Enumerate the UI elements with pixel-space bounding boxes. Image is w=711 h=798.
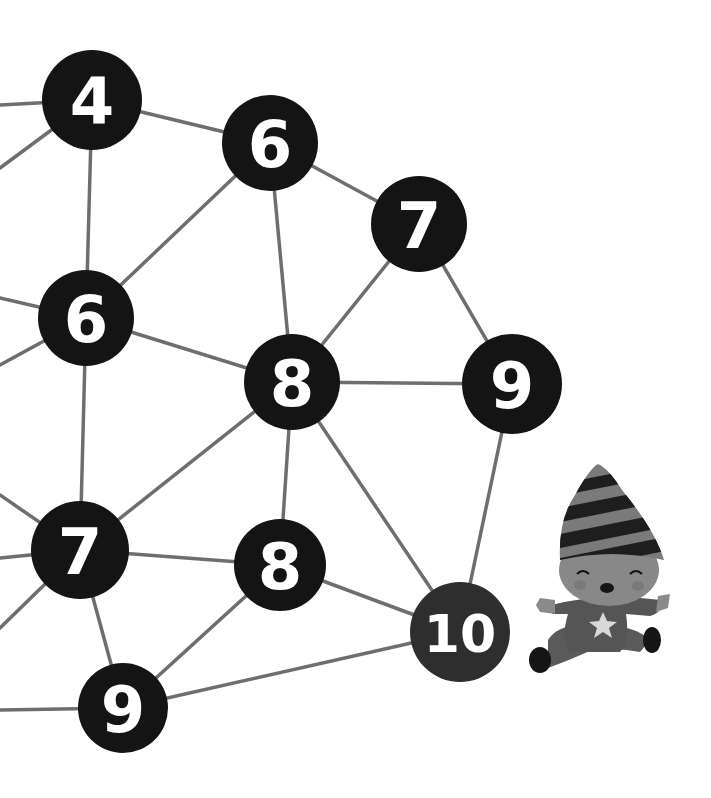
number-node-7: 7 <box>371 176 467 272</box>
number-node-10: 10 <box>410 582 510 682</box>
node-number-label: 10 <box>424 604 496 664</box>
number-node-8: 8 <box>244 334 340 430</box>
node-number-label: 8 <box>258 530 303 604</box>
child-hand-left <box>536 598 555 614</box>
node-number-label: 9 <box>490 349 535 423</box>
child-mouth <box>600 583 614 593</box>
number-node-6: 6 <box>222 95 318 191</box>
node-number-label: 4 <box>70 65 115 139</box>
number-network-illustration: 46768978109 <box>0 0 711 798</box>
number-node-4: 4 <box>42 50 142 150</box>
child-foot-left <box>529 647 551 673</box>
node-number-label: 6 <box>64 283 109 357</box>
edge-n9b-n10 <box>123 632 460 708</box>
node-number-label: 7 <box>397 189 442 263</box>
child-foot-right <box>643 627 661 653</box>
node-number-label: 6 <box>248 108 293 182</box>
number-nodes: 46768978109 <box>31 50 562 753</box>
node-number-label: 7 <box>58 515 103 589</box>
child-cheek-right <box>632 581 644 591</box>
number-node-6: 6 <box>38 270 134 366</box>
number-node-9: 9 <box>462 334 562 434</box>
number-node-9: 9 <box>78 663 168 753</box>
child-cheek-left <box>574 580 586 590</box>
node-number-label: 9 <box>101 673 146 747</box>
number-node-7: 7 <box>31 501 129 599</box>
number-node-8: 8 <box>234 519 326 611</box>
party-hat-child-figure <box>529 455 680 673</box>
child-hand-right <box>656 594 670 612</box>
node-number-label: 8 <box>270 347 315 421</box>
